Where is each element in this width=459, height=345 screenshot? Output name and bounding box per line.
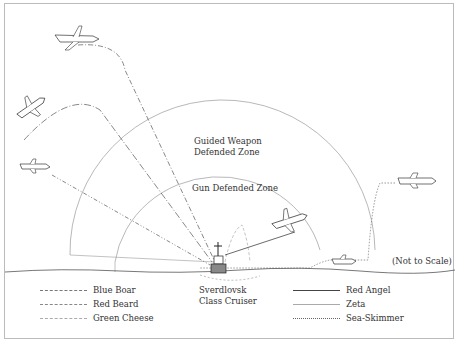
legend-item-zeta: Zeta: [293, 299, 365, 309]
legend-item-red-beard: Red Beard: [40, 299, 138, 309]
guided-weapon-zone-arc: [70, 100, 375, 255]
legend-item-sea-skimmer: Sea-Skimmer: [293, 313, 404, 323]
red-beard-trajectory: [24, 104, 212, 262]
legend-item-red-angel: Red Angel: [293, 285, 390, 295]
legend-swatch: [40, 304, 87, 305]
sea-surface-line: [5, 268, 455, 273]
red-angel-trajectory: [225, 232, 295, 255]
legend-swatch: [293, 290, 340, 291]
sea-skimmer-aircraft-icon: [398, 173, 436, 188]
gun-zone-label: Gun Defended Zone: [192, 183, 278, 194]
green-cheese-aircraft-icon: [20, 159, 50, 173]
green-cheese-trajectory: [52, 175, 210, 265]
guided-weapon-zone-label: Guided Weapon Defended Zone: [194, 136, 262, 158]
blue-boar-aircraft-icon: [55, 26, 99, 50]
red-angel-aircraft-icon: [269, 203, 311, 237]
cruiser-ship-icon: [211, 242, 226, 273]
scale-note: (Not to Scale): [392, 256, 452, 267]
legend-item-blue-boar: Blue Boar: [40, 285, 136, 295]
zeta-aircraft-icon: [332, 255, 356, 264]
zeta-trajectory: [225, 225, 250, 262]
legend-swatch: [40, 318, 87, 319]
sea-skimmer-trajectory: [200, 183, 395, 268]
legend-item-green-cheese: Green Cheese: [40, 313, 154, 323]
legend-swatch: [40, 290, 87, 291]
legend-swatch: [293, 304, 340, 305]
ship-label: Sverdlovsk Class Cruiser: [199, 285, 257, 307]
legend-swatch: [293, 318, 340, 319]
